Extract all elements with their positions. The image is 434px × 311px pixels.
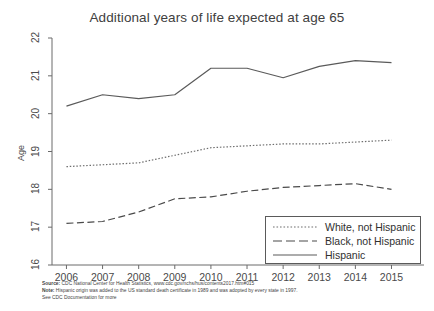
data-series (66, 61, 391, 224)
footnote-note: Note: Hispanic origin was added to the U… (42, 288, 422, 295)
series-line (66, 140, 391, 166)
footnote-note-text: Hispanic origin was added to the US stan… (55, 288, 298, 293)
footnote-doc: See CDC Documentation for more (42, 295, 422, 302)
chart-footnotes: Source: CDC National Center for Health S… (42, 281, 422, 302)
legend-label-black: Black, not Hispanic (325, 235, 414, 247)
legend-item-white: White, not Hispanic (266, 220, 420, 234)
legend-key-solid-icon (271, 249, 319, 261)
chart-container: Additional years of life expected at age… (0, 0, 434, 311)
legend-key-dotted-icon (271, 221, 319, 233)
footnote-note-label: Note: (42, 288, 55, 293)
series-line (66, 61, 391, 106)
legend-label-hispanic: Hispanic (325, 249, 365, 261)
legend-item-hispanic: Hispanic (266, 248, 420, 262)
plot-area (0, 0, 434, 311)
legend-key-dashed-icon (271, 235, 319, 247)
footnote-source-text: CDC National Center for Health Statistic… (60, 281, 254, 286)
legend-item-black: Black, not Hispanic (266, 234, 420, 248)
chart-legend: White, not Hispanic Black, not Hispanic … (265, 216, 421, 264)
footnote-source-label: Source: (42, 281, 60, 286)
footnote-source: Source: CDC National Center for Health S… (42, 281, 422, 288)
legend-label-white: White, not Hispanic (325, 221, 415, 233)
